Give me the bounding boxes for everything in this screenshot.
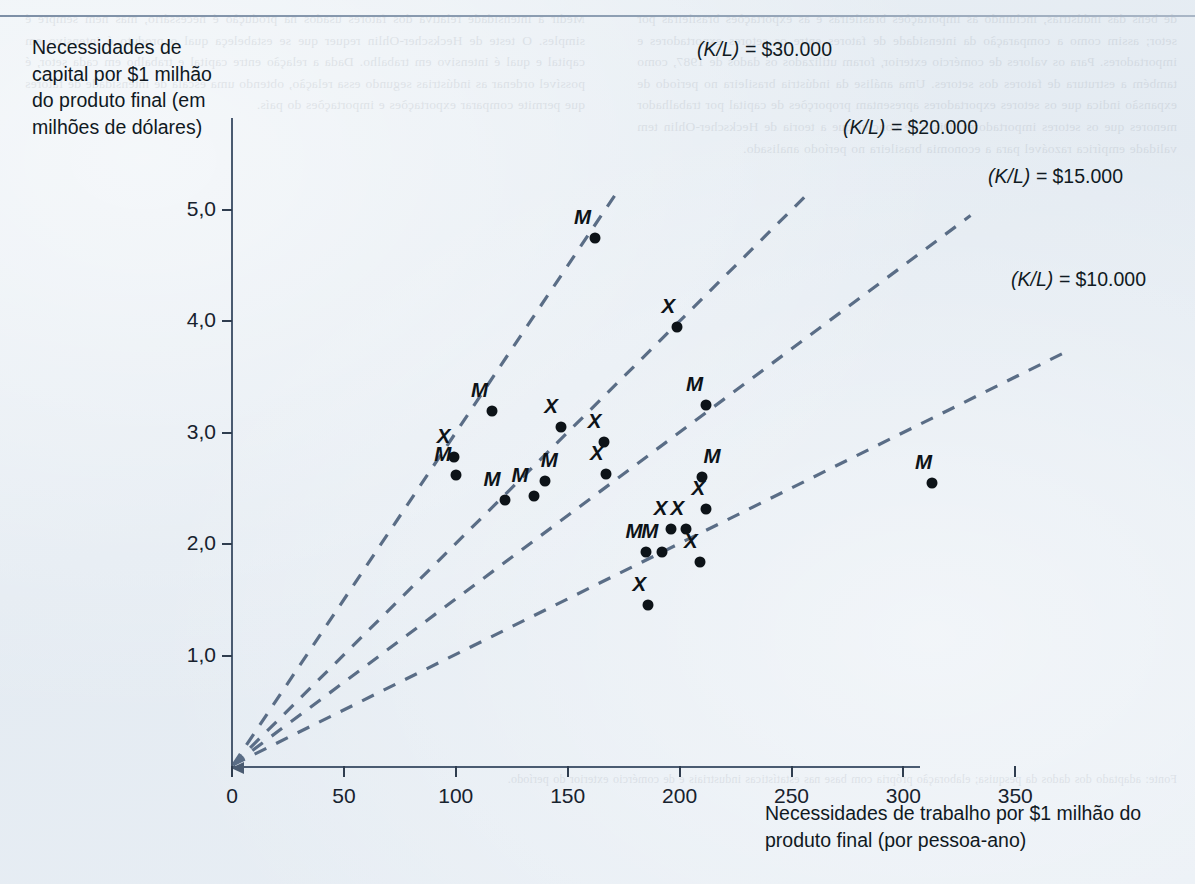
ray-label-value: $30.000	[761, 38, 832, 60]
data-point-label: X	[670, 496, 684, 520]
data-point-label: M	[915, 450, 932, 474]
y-tick-mark	[222, 320, 232, 322]
ray-label: (K/L) = $10.000	[1011, 268, 1146, 291]
x-tick-mark	[567, 766, 569, 777]
reference-ray-line	[233, 216, 970, 765]
ray-label: (K/L) = $30.000	[697, 38, 832, 61]
y-tick-label: 1,0	[156, 643, 216, 667]
y-axis-line	[231, 118, 233, 768]
ray-label-prefix: (K/L) =	[988, 165, 1052, 187]
x-tick-mark	[343, 766, 345, 777]
y-tick-mark	[222, 432, 232, 434]
data-point-label: M	[641, 519, 658, 543]
data-point-marker	[665, 523, 676, 534]
data-point-label: M	[686, 372, 703, 396]
data-point-label: M	[703, 444, 720, 468]
y-tick-mark	[222, 209, 232, 211]
data-point-marker	[598, 436, 609, 447]
x-tick-label: 50	[304, 784, 384, 808]
ray-label-value: $10.000	[1075, 268, 1146, 290]
ray-label-prefix: (K/L) =	[843, 116, 907, 138]
y-tick-label: 5,0	[156, 197, 216, 221]
data-point-label: M	[541, 448, 558, 472]
data-point-marker	[589, 232, 600, 243]
ray-label-value: $20.000	[907, 116, 978, 138]
data-point-label: X	[662, 294, 676, 318]
data-point-marker	[643, 600, 654, 611]
figure-page: de bens das indústrias, incluindo as imp…	[0, 0, 1195, 884]
y-axis-title: Necessidades de capital por $1 milhão do…	[32, 34, 217, 140]
y-tick-label: 3,0	[156, 420, 216, 444]
data-point-label: M	[625, 519, 642, 543]
data-point-label: M	[512, 463, 529, 487]
data-point-marker	[448, 452, 459, 463]
x-axis-line	[231, 766, 920, 768]
x-tick-mark	[455, 766, 457, 777]
data-point-marker	[927, 477, 938, 488]
x-tick-mark	[1014, 766, 1016, 777]
x-tick-label: 150	[528, 784, 608, 808]
x-tick-mark	[679, 766, 681, 777]
ray-label: (K/L) = $20.000	[843, 116, 978, 139]
x-axis-title: Necessidades de trabalho por $1 milhão d…	[765, 800, 1165, 853]
data-point-marker	[701, 399, 712, 410]
data-point-marker	[694, 557, 705, 568]
x-tick-label: 100	[416, 784, 496, 808]
y-tick-label: 4,0	[156, 308, 216, 332]
ray-label-value: $15.000	[1052, 165, 1123, 187]
x-tick-label: 200	[640, 784, 720, 808]
data-point-label: X	[544, 394, 558, 418]
y-tick-mark	[222, 543, 232, 545]
reference-ray-line	[233, 196, 615, 765]
data-point-label: X	[437, 424, 451, 448]
data-point-label: X	[692, 476, 706, 500]
x-tick-mark	[231, 766, 233, 777]
data-point-marker	[555, 422, 566, 433]
data-point-marker	[656, 546, 667, 557]
scatter-chart: 1,02,03,04,05,0 050100150200250300350 Ne…	[0, 0, 1195, 884]
x-tick-mark	[902, 766, 904, 777]
y-tick-label: 2,0	[156, 531, 216, 555]
ray-label-prefix: (K/L) =	[697, 38, 761, 60]
data-point-label: X	[588, 409, 602, 433]
data-point-marker	[672, 321, 683, 332]
data-point-label: X	[632, 572, 646, 596]
ray-label-prefix: (K/L) =	[1011, 268, 1075, 290]
data-point-label: M	[574, 205, 591, 229]
data-point-label: M	[483, 467, 500, 491]
data-point-marker	[641, 546, 652, 557]
data-point-marker	[500, 494, 511, 505]
data-point-marker	[486, 405, 497, 416]
ray-label: (K/L) = $15.000	[988, 165, 1123, 188]
data-point-label: X	[654, 496, 668, 520]
data-point-marker	[529, 491, 540, 502]
x-tick-label: 0	[192, 784, 272, 808]
data-point-marker	[540, 475, 551, 486]
data-point-label: M	[471, 378, 488, 402]
reference-ray-line	[233, 350, 1069, 764]
y-tick-mark	[222, 655, 232, 657]
data-point-label: X	[684, 529, 698, 553]
data-point-marker	[600, 469, 611, 480]
x-tick-mark	[791, 766, 793, 777]
data-point-marker	[701, 503, 712, 514]
data-point-marker	[450, 470, 461, 481]
